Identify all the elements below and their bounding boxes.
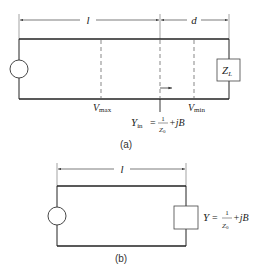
transmission-line-diagrams: l d ZL Vmax Vmin Yin = 1 Z0 +jB — [0, 0, 265, 276]
svg-text:1: 1 — [225, 209, 229, 217]
caption-a: (a) — [120, 139, 132, 150]
svg-text:Z0: Z0 — [222, 222, 229, 230]
source-icon-b — [48, 207, 66, 225]
load-admittance-box — [174, 206, 198, 229]
svg-text:=: = — [150, 117, 156, 128]
svg-text:1: 1 — [161, 115, 165, 123]
y-equation: Y = 1 Z0 +jB — [203, 209, 249, 230]
dimension-l-label-b: l — [120, 163, 123, 175]
vmin-label: Vmin — [188, 102, 205, 114]
dimension-d-label: d — [191, 14, 197, 26]
svg-text:+jB: +jB — [233, 212, 249, 223]
figure-b: l Y = 1 Z0 +jB (b) — [48, 163, 249, 264]
svg-text:Yin: Yin — [131, 116, 143, 130]
svg-text:+jB: +jB — [169, 117, 185, 128]
yin-equation: Yin = 1 Z0 +jB — [131, 115, 185, 134]
dimension-l-label: l — [86, 14, 89, 26]
svg-text:Y: Y — [203, 211, 211, 223]
svg-text:Z0: Z0 — [159, 126, 166, 134]
vmax-label: Vmax — [93, 102, 112, 114]
svg-text:=: = — [212, 212, 218, 223]
caption-b: (b) — [115, 253, 127, 264]
source-icon — [10, 60, 28, 78]
figure-a: l d ZL Vmax Vmin Yin = 1 Z0 +jB — [10, 14, 240, 150]
